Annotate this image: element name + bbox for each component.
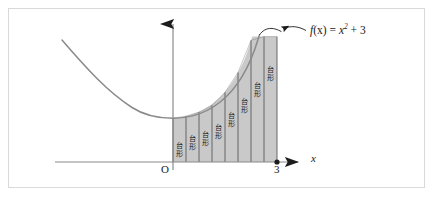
strip-label-7: 台形 — [253, 82, 262, 97]
strip-label-8: 台形 — [266, 66, 275, 81]
origin-label: O — [161, 163, 169, 175]
function-constant: + 3 — [351, 24, 366, 36]
strip-label-5: 台形 — [227, 112, 236, 127]
figure-root: 台形 台形 台形 台形 台形 台形 台形 台形 O 3 x f(x) = x2 … — [0, 0, 436, 201]
function-arg: (x) — [313, 24, 326, 36]
curve-endpoint — [259, 28, 281, 35]
function-label: f(x) = x2 + 3 — [310, 22, 366, 36]
strip-label-6: 台形 — [240, 98, 249, 113]
x-tick-label-3: 3 — [274, 163, 280, 175]
function-exponent: 2 — [344, 22, 348, 31]
x-axis-label: x — [311, 152, 316, 164]
function-equals: = — [330, 24, 337, 36]
strip-label-2: 台形 — [188, 135, 197, 150]
strip-label-4: 台形 — [214, 124, 223, 139]
function-leader-arrow — [283, 27, 306, 31]
strip-label-1: 台形 — [175, 142, 184, 157]
figure-canvas — [0, 0, 436, 201]
strip-label-3: 台形 — [201, 131, 210, 146]
